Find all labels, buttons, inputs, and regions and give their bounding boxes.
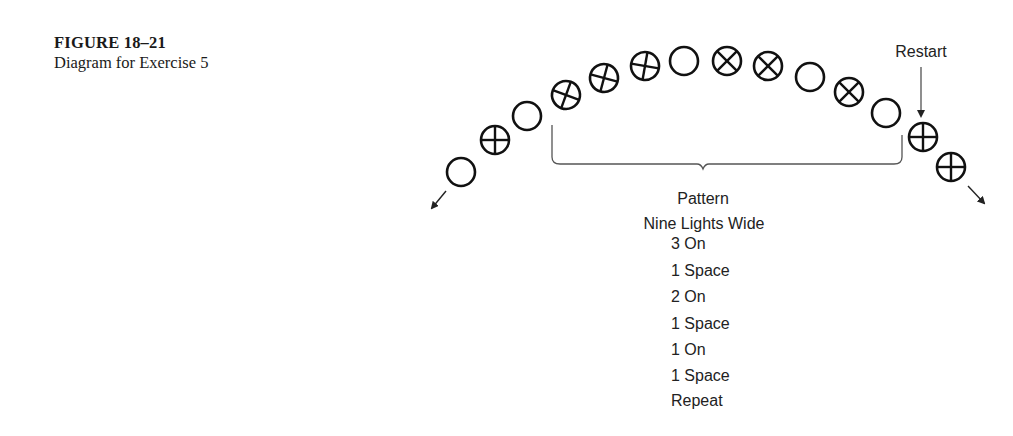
pattern-subtitle: Nine Lights Wide xyxy=(644,215,765,232)
light-on-icon xyxy=(748,46,788,86)
light-off-icon xyxy=(796,63,824,91)
light-off-icon xyxy=(513,102,541,130)
pattern-step: 2 On xyxy=(671,288,706,305)
light-off-icon xyxy=(670,47,698,75)
light-on-icon xyxy=(707,41,747,81)
light-off-icon xyxy=(447,158,475,186)
left-direction-arrow-icon xyxy=(432,191,446,208)
pattern-title: Pattern xyxy=(677,190,729,207)
pattern-step: 1 Space xyxy=(671,367,730,384)
light-pattern-diagram: Restart Pattern Nine Lights Wide 3 On 1 … xyxy=(0,0,1013,436)
light-on-icon xyxy=(829,72,869,112)
pattern-step: 3 On xyxy=(671,235,706,252)
light-off-icon xyxy=(872,99,900,127)
pattern-step: 1 Space xyxy=(671,262,730,279)
light-on-icon xyxy=(481,126,509,154)
pattern-step: Repeat xyxy=(671,392,723,409)
light-on-icon xyxy=(629,50,661,82)
restart-label: Restart xyxy=(895,43,947,60)
light-on-icon xyxy=(937,153,965,181)
right-direction-arrow-icon xyxy=(968,186,984,203)
pattern-step: 1 On xyxy=(671,341,706,358)
pattern-bracket xyxy=(552,125,902,169)
pattern-step: 1 Space xyxy=(671,315,730,332)
light-on-icon xyxy=(909,123,937,151)
light-on-icon xyxy=(548,77,584,113)
light-on-icon xyxy=(587,61,621,95)
